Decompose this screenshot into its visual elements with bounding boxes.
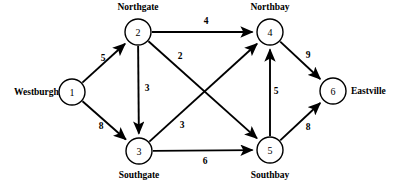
edge-weight-4-6: 9 bbox=[306, 50, 311, 60]
edges-layer bbox=[82, 32, 320, 151]
edge-1-to-3 bbox=[83, 101, 126, 139]
edge-3-to-5 bbox=[153, 150, 253, 151]
edge-weight-5-4: 5 bbox=[274, 86, 279, 96]
node-number-4: 4 bbox=[268, 27, 273, 38]
node-5[interactable]: 5Southbay bbox=[251, 137, 290, 180]
node-number-3: 3 bbox=[137, 146, 142, 157]
graph-canvas: 1Westburgh2Northgate3Southgate4Northbay5… bbox=[0, 0, 397, 182]
node-number-5: 5 bbox=[268, 145, 273, 156]
node-3[interactable]: 3Southgate bbox=[119, 138, 160, 180]
nodes-layer: 1Westburgh2Northgate3Southgate4Northbay5… bbox=[14, 2, 386, 180]
node-label-4: Northbay bbox=[250, 2, 289, 12]
edge-weight-1-2: 5 bbox=[101, 53, 106, 63]
network-diagram: 1Westburgh2Northgate3Southgate4Northbay5… bbox=[0, 0, 397, 182]
edge-3-to-4 bbox=[149, 44, 257, 142]
node-number-6: 6 bbox=[331, 86, 336, 97]
node-number-2: 2 bbox=[136, 27, 141, 38]
node-number-1: 1 bbox=[70, 87, 75, 98]
edge-weight-1-3: 8 bbox=[99, 121, 104, 131]
edge-weight-2-3: 3 bbox=[145, 83, 150, 93]
edge-weight-3-4: 3 bbox=[180, 120, 185, 130]
node-label-5: Southbay bbox=[251, 170, 290, 180]
node-6[interactable]: 6Eastville bbox=[320, 78, 386, 104]
edge-2-to-3 bbox=[138, 46, 139, 134]
edge-5-to-6 bbox=[280, 103, 320, 140]
node-label-1: Westburgh bbox=[14, 87, 60, 97]
node-1[interactable]: 1Westburgh bbox=[14, 79, 85, 105]
node-label-6: Eastville bbox=[351, 86, 386, 96]
edge-weight-2-4: 4 bbox=[204, 16, 209, 26]
node-label-3: Southgate bbox=[119, 170, 160, 180]
edge-1-to-2 bbox=[82, 44, 125, 83]
edge-4-to-6 bbox=[280, 42, 320, 79]
edge-weight-5-6: 8 bbox=[306, 122, 311, 132]
node-4[interactable]: 4Northbay bbox=[250, 2, 289, 45]
edge-weight-3-5: 6 bbox=[203, 156, 208, 166]
node-label-2: Northgate bbox=[117, 2, 158, 12]
edge-2-to-5 bbox=[148, 41, 257, 138]
node-2[interactable]: 2Northgate bbox=[117, 2, 158, 45]
edge-weight-2-5: 2 bbox=[178, 51, 183, 61]
